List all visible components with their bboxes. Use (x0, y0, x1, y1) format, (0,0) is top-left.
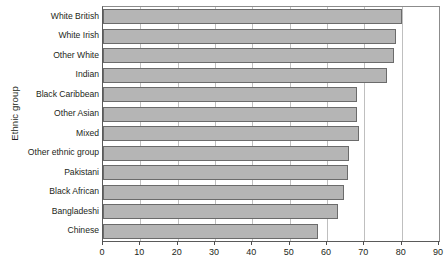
category-label: Other ethnic group (14, 147, 99, 157)
category-label-column: White BritishWhite IrishOther WhiteIndia… (14, 6, 99, 240)
x-tick-90 (438, 241, 439, 245)
bar (103, 48, 394, 63)
category-label: White British (14, 11, 99, 21)
x-tick-label: 20 (162, 247, 192, 257)
x-tick-label: 40 (236, 247, 266, 257)
category-label: Mixed (14, 128, 99, 138)
x-tick-label: 50 (274, 247, 304, 257)
bar (103, 68, 387, 83)
x-tick-40 (251, 241, 252, 245)
bar (103, 165, 348, 180)
category-label: Other White (14, 50, 99, 60)
gridline-80 (402, 7, 403, 241)
bar (103, 9, 402, 24)
x-tick-label: 30 (199, 247, 229, 257)
bar (103, 87, 357, 102)
bar (103, 185, 344, 200)
category-label: Other Asian (14, 108, 99, 118)
x-tick-label: 10 (124, 247, 154, 257)
horizontal-bar-chart: Ethnic group White BritishWhite IrishOth… (0, 0, 447, 271)
x-tick-label: 70 (348, 247, 378, 257)
x-tick-70 (363, 241, 364, 245)
category-label: Chinese (14, 225, 99, 235)
category-label: Pakistani (14, 167, 99, 177)
x-axis: 0102030405060708090 (102, 241, 439, 271)
bar (103, 107, 357, 122)
bar (103, 204, 338, 219)
category-label: White Irish (14, 30, 99, 40)
x-tick-60 (326, 241, 327, 245)
category-label: Black Caribbean (14, 89, 99, 99)
x-tick-20 (177, 241, 178, 245)
bar (103, 126, 359, 141)
x-tick-30 (214, 241, 215, 245)
category-label: Black African (14, 186, 99, 196)
x-tick-10 (139, 241, 140, 245)
bar (103, 224, 318, 239)
bar (103, 146, 349, 161)
x-tick-label: 80 (386, 247, 416, 257)
x-tick-50 (289, 241, 290, 245)
plot-area (102, 6, 440, 242)
x-tick-0 (102, 241, 103, 245)
bar (103, 29, 396, 44)
x-tick-label: 90 (423, 247, 447, 257)
category-label: Bangladeshi (14, 206, 99, 216)
x-tick-label: 60 (311, 247, 341, 257)
x-tick-80 (401, 241, 402, 245)
category-label: Indian (14, 69, 99, 79)
x-tick-label: 0 (87, 247, 117, 257)
